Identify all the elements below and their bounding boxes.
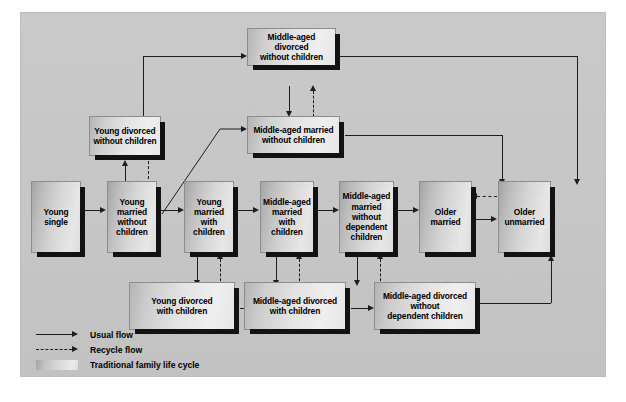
usual-flow-icon [34, 327, 86, 342]
node-label: Middle-agedmarried withoutdependentchild… [340, 191, 393, 242]
node-label: Youngsingle [42, 207, 71, 228]
arrowhead [100, 207, 106, 213]
node-young-divorced-without-children[interactable]: Young divorcedwithout children [89, 116, 161, 156]
recycle-older-unmarried-to-older-married [477, 196, 497, 197]
flow-mamwodc-to-madwodc [357, 253, 358, 282]
node-middle-aged-married-with-children[interactable]: Middle-agedmarriedwithchildren [260, 181, 314, 253]
node-young-single[interactable]: Youngsingle [31, 181, 81, 253]
flow-madwo-to-older-unmarried-vert [577, 56, 578, 181]
node-label: Oldermarried [428, 207, 462, 228]
diagram-canvas: Youngsingle Youngmarriedwithoutchildren … [21, 13, 605, 376]
flow-mamwo-to-older-married-vert [502, 135, 503, 181]
node-label: Middle-aged divorcedwith children [251, 296, 339, 317]
arrowhead [310, 85, 316, 91]
node-young-married-with-children[interactable]: Youngmarriedwithchildren [184, 181, 234, 253]
flow-ydwo-to-madwo-horiz [143, 56, 242, 57]
legend-item-recycle-flow: Recycle flow [34, 342, 199, 357]
legend: Usual flow Recycle flow Traditional fami… [34, 327, 199, 372]
node-label: Middle-aged divorcedwithoutdependent chi… [381, 291, 469, 322]
node-label: Olderunmarried [502, 207, 546, 228]
legend-item-usual-flow: Usual flow [34, 327, 199, 342]
flow-mamwo-to-older-married-horiz [345, 135, 502, 136]
node-middle-aged-divorced-without-dependent-children[interactable]: Middle-aged divorcedwithoutdependent chi… [374, 282, 476, 330]
arrowhead [122, 160, 128, 166]
node-label: Youngmarriedwithchildren [191, 197, 227, 238]
flow-ymw-to-ydw [197, 253, 198, 282]
node-older-married[interactable]: Oldermarried [419, 181, 472, 253]
node-label: Middle-agedmarriedwithchildren [261, 197, 313, 238]
flow-madwodc-to-older-unmarried-vert [551, 261, 552, 303]
node-young-divorced-with-children[interactable]: Young divorcedwith children [129, 282, 235, 330]
arrowhead [253, 207, 259, 213]
legend-item-traditional-family-life-cycle: Traditional family life cycle [34, 357, 199, 372]
arrowhead [574, 179, 580, 185]
node-middle-aged-divorced-without-children[interactable]: Middle-aged divorcedwithout children [247, 28, 336, 66]
arrowhead [491, 216, 497, 222]
node-label: Middle-aged marriedwithout children [251, 125, 335, 146]
flow-madw-to-madwodc [351, 308, 369, 309]
flow-young-single-to-young-married-without-children [84, 210, 101, 211]
flow-madwo-to-mamwo [289, 86, 290, 113]
recycle-mamwo-to-madwo [313, 91, 314, 117]
recycle-flow-icon [34, 342, 86, 357]
node-label: Youngmarriedwithoutchildren [114, 197, 150, 238]
node-label: Middle-aged divorcedwithout children [248, 32, 335, 63]
node-middle-aged-married-without-children[interactable]: Middle-aged marriedwithout children [247, 116, 340, 154]
legend-label: Usual flow [90, 330, 133, 340]
flow-madwo-to-older-unmarried-horiz [336, 56, 577, 57]
node-young-married-without-children[interactable]: Youngmarriedwithoutchildren [107, 181, 157, 253]
node-middle-aged-married-without-dependent-children[interactable]: Middle-agedmarried withoutdependentchild… [339, 181, 394, 253]
legend-label: Traditional family life cycle [90, 360, 199, 370]
traditional-swatch-icon [34, 357, 86, 372]
node-label: Young divorcedwithout children [91, 126, 158, 147]
node-label: Young divorcedwith children [149, 296, 214, 317]
node-older-unmarried[interactable]: Olderunmarried [498, 181, 551, 253]
flow-mamw-to-madw [276, 253, 277, 282]
arrowhead [354, 280, 360, 286]
legend-label: Recycle flow [90, 345, 142, 355]
node-middle-aged-divorced-with-children[interactable]: Middle-aged divorcedwith children [244, 282, 346, 330]
flow-ydwo-to-madwo-vert [143, 56, 144, 116]
